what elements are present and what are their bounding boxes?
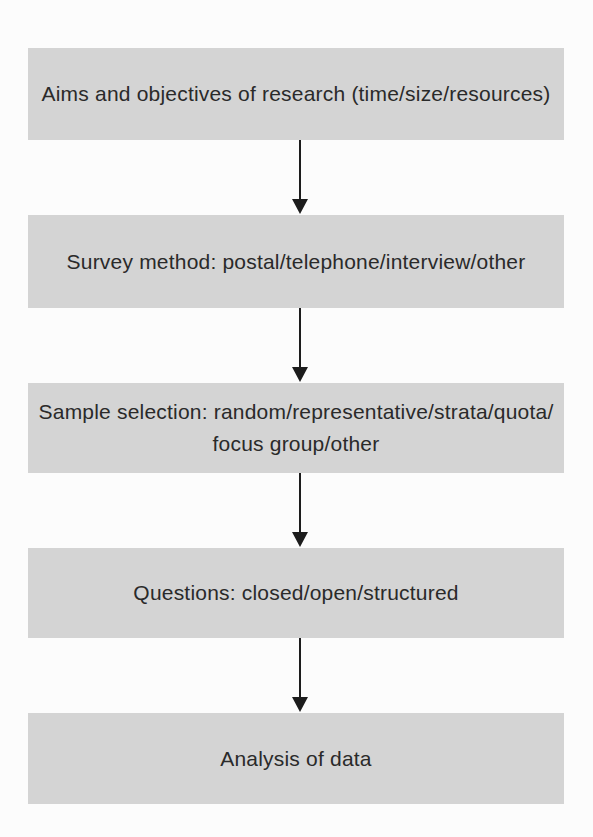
flow-step-label: Questions: closed/open/structured [127, 577, 464, 609]
flow-connector-3 [286, 473, 314, 547]
flow-step-label: Sample selection: random/representative/… [33, 396, 560, 460]
flow-step-label: Survey method: postal/telephone/intervie… [61, 246, 532, 278]
flow-connector-2 [286, 308, 314, 382]
survey-process-flowchart: Aims and objectives of research (time/si… [0, 0, 593, 837]
flow-step-sample-selection: Sample selection: random/representative/… [28, 383, 564, 473]
arrow-head-down-icon [292, 367, 308, 382]
flow-step-questions: Questions: closed/open/structured [28, 548, 564, 638]
arrow-head-down-icon [292, 697, 308, 712]
arrow-head-down-icon [292, 532, 308, 547]
flow-step-aims-objectives: Aims and objectives of research (time/si… [28, 48, 564, 140]
arrow-line [299, 140, 301, 199]
flow-step-survey-method: Survey method: postal/telephone/intervie… [28, 215, 564, 308]
arrow-line [299, 473, 301, 532]
flow-connector-1 [286, 140, 314, 214]
arrow-head-down-icon [292, 199, 308, 214]
flow-step-analysis: Analysis of data [28, 713, 564, 804]
arrow-line [299, 638, 301, 697]
arrow-line [299, 308, 301, 367]
flow-step-label: Analysis of data [214, 743, 377, 775]
flow-connector-4 [286, 638, 314, 712]
flow-step-label: Aims and objectives of research (time/si… [36, 78, 557, 110]
